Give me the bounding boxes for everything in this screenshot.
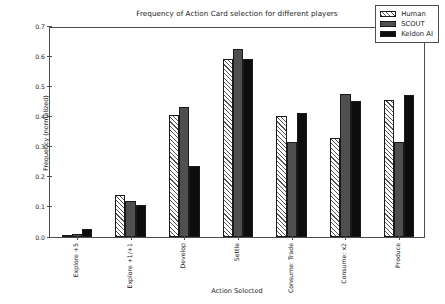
x-axis-label: Action Selected — [49, 287, 425, 296]
x-axis-group — [211, 28, 265, 237]
x-tick-mark — [292, 237, 293, 240]
legend-label: Human — [401, 10, 426, 19]
x-axis-group — [104, 28, 158, 237]
legend-swatch-icon — [380, 31, 396, 38]
plot-frame: Frequency (normalized) 0.00.10.20.30.40.… — [49, 27, 425, 238]
x-tick-label: Consume: x2 — [340, 243, 348, 284]
chart-title: Frequency of Action Card selection for d… — [49, 9, 425, 18]
x-tick-mark-inner — [184, 235, 185, 237]
y-tick-label: 0.3 — [35, 142, 45, 151]
x-tick-mark-inner — [238, 235, 239, 237]
x-axis-group — [157, 28, 211, 237]
x-tick-mark-inner — [131, 235, 132, 237]
y-tick-label: 0.1 — [35, 202, 45, 211]
x-tick-mark — [131, 237, 132, 240]
x-tick-mark-inner — [399, 235, 400, 237]
legend-item: SCOUT — [380, 19, 433, 29]
x-tick-mark-inner — [292, 235, 293, 237]
legend-item: Keldon AI — [380, 29, 433, 39]
y-tick-label: 0.5 — [35, 82, 45, 91]
x-tick-label: Explore +1/+1 — [126, 243, 134, 289]
x-axis-group — [372, 28, 426, 237]
x-axis-group — [319, 28, 373, 237]
x-axis-group — [265, 28, 319, 237]
x-tick-label: Settle — [233, 243, 241, 261]
x-tick-label: Consume: Trade — [287, 243, 295, 293]
x-tick-mark — [77, 237, 78, 240]
legend-label: SCOUT — [401, 20, 425, 29]
legend-swatch-icon — [380, 21, 396, 28]
x-tick-mark-inner — [345, 235, 346, 237]
x-tick-label: Produce — [394, 243, 402, 268]
x-tick-mark — [345, 237, 346, 240]
x-tick-label: Explore +5 — [72, 243, 80, 277]
x-tick-mark — [399, 237, 400, 240]
legend-item: Human — [380, 9, 433, 19]
x-tick-mark — [238, 237, 239, 240]
x-axis-group — [50, 28, 104, 237]
y-tick-label: 0.0 — [35, 233, 45, 242]
y-tick-label: 0.6 — [35, 52, 45, 61]
y-tick-label: 0.7 — [35, 22, 45, 31]
x-tick-label: Develop — [179, 243, 187, 268]
y-tick-mark-inner — [50, 26, 52, 27]
legend-label: Keldon AI — [401, 30, 433, 39]
x-tick-mark — [184, 237, 185, 240]
y-tick-label: 0.4 — [35, 112, 45, 121]
x-tick-mark-inner — [77, 235, 78, 237]
legend-swatch-icon — [380, 11, 396, 18]
y-tick-label: 0.2 — [35, 172, 45, 181]
y-axis-label: Frequency (normalized) — [42, 95, 50, 171]
bar-chart-figure: Frequency of Action Card selection for d… — [0, 0, 445, 304]
chart-legend: HumanSCOUTKeldon AI — [375, 5, 439, 43]
